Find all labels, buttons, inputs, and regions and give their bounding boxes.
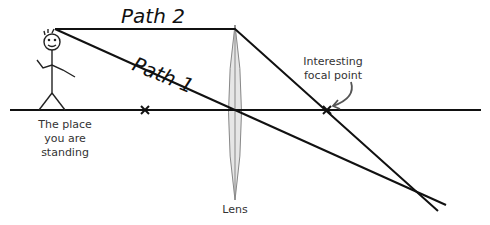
standing-label-line: The place bbox=[30, 118, 100, 132]
optics-diagram bbox=[0, 0, 490, 225]
path-1-ray bbox=[55, 29, 446, 205]
lens-label: Lens bbox=[215, 203, 255, 217]
focal-label-line: focal point bbox=[293, 69, 373, 83]
path-2-label: Path 2 bbox=[121, 4, 185, 28]
standing-label-line: you are bbox=[30, 132, 100, 146]
path-2-ray bbox=[55, 29, 438, 211]
standing-label: The place you are standing bbox=[30, 118, 100, 160]
stick-figure-icon bbox=[37, 29, 75, 110]
focal-point-label: Interesting focal point bbox=[293, 55, 373, 83]
standing-label-line: standing bbox=[30, 146, 100, 160]
focal-label-line: Interesting bbox=[293, 55, 373, 69]
